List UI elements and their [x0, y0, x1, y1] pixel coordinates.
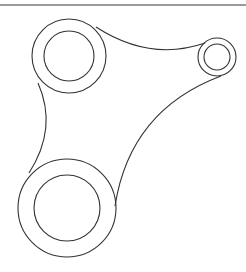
right-boss-hole-circle: [204, 44, 230, 70]
top-left-boss-hole-circle: [44, 31, 94, 81]
top-edge-arc: [96, 27, 205, 50]
bottom-boss-hole-circle: [34, 175, 100, 241]
top-left-boss-outer-circle: [32, 19, 106, 93]
bottom-boss: [18, 159, 116, 257]
right-edge-arc: [115, 76, 221, 206]
bottom-boss-outer-circle: [18, 159, 116, 257]
link-plate-drawing: [0, 0, 246, 272]
top-left-boss: [32, 19, 106, 93]
left-edge-arc: [29, 83, 46, 173]
